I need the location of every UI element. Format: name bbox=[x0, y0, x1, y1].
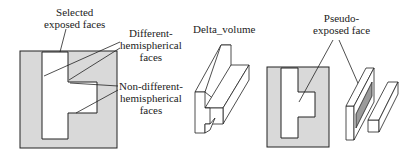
label-different-hemispherical-faces: Different- hemispherical faces bbox=[120, 27, 182, 63]
leader-selected bbox=[60, 29, 66, 52]
diagram-canvas: Selected exposed faces Different- hemisp… bbox=[0, 0, 417, 154]
section-view-1 bbox=[20, 29, 120, 148]
bar-front bbox=[368, 120, 379, 132]
label-delta-volume: Delta_volume bbox=[193, 23, 255, 35]
delta-volume-3d bbox=[195, 45, 249, 133]
split-volumes-3d bbox=[346, 68, 398, 140]
label-selected-exposed-faces: Selected exposed faces bbox=[44, 6, 105, 30]
label-pseudo-exposed-face: Pseudo- exposed face bbox=[313, 12, 370, 36]
thin-slab-front bbox=[346, 106, 354, 140]
label-non-different-hemispherical-faces: Non-different- hemispherical faces bbox=[119, 80, 183, 116]
